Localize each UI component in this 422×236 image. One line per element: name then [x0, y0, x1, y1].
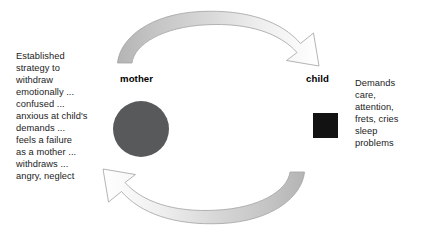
child-description-text: Demands care, attention, frets, cries sl… [355, 77, 421, 149]
node-label-mother: mother [120, 73, 153, 84]
node-label-child: child [306, 73, 329, 84]
cycle-diagram: mother child Established strategy to wit… [0, 0, 422, 236]
mother-description-text: Established strategy to withdraw emotion… [16, 50, 120, 183]
arrow-mother-to-child [118, 11, 320, 66]
mother-circle-shape [113, 101, 169, 157]
child-square-shape [313, 113, 338, 138]
arrow-child-to-mother [103, 169, 305, 224]
